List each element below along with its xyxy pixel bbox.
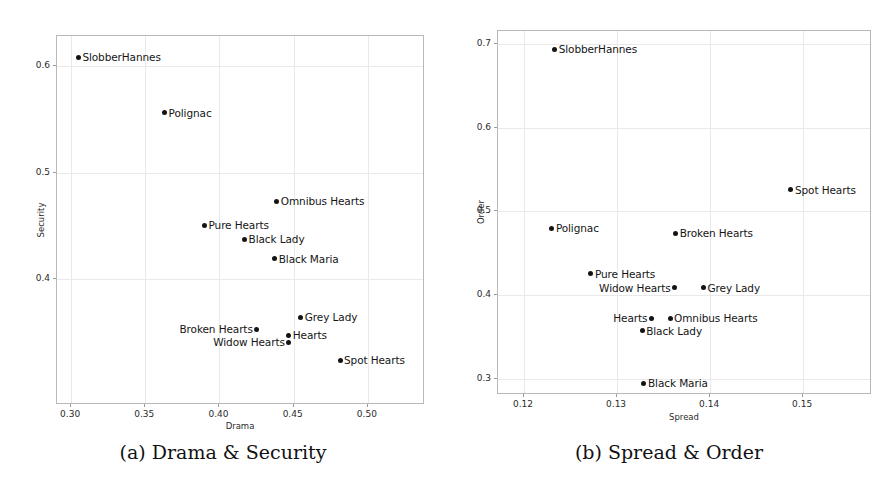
x-tick-mark [144, 404, 145, 407]
x-tick-label: 0.12 [513, 399, 533, 409]
x-tick-mark [218, 404, 219, 407]
panel-spread-order: Spread Order (b) Spread & Order 0.120.13… [446, 0, 892, 502]
x-tick-mark [802, 394, 803, 397]
gridline-horizontal [57, 279, 423, 280]
data-point [673, 231, 678, 236]
data-point-label: SlobberHannes [82, 52, 160, 63]
gridline-horizontal [498, 44, 870, 45]
gridline-vertical [368, 36, 369, 403]
x-tick-label: 0.30 [60, 409, 80, 419]
data-point-label: Spot Hearts [795, 184, 856, 195]
panel-drama-security: Drama Security (a) Drama & Security 0.30… [0, 0, 446, 502]
gridline-horizontal [57, 66, 423, 67]
data-point-label: Polignac [169, 107, 212, 118]
x-tick-label: 0.14 [699, 399, 719, 409]
x-tick-label: 0.40 [208, 409, 228, 419]
y-tick-mark [53, 65, 56, 66]
data-point-label: Hearts [293, 330, 327, 341]
y-tick-mark [494, 210, 497, 211]
y-tick-mark [494, 378, 497, 379]
y-tick-mark [53, 278, 56, 279]
gridline-horizontal [57, 173, 423, 174]
x-tick-mark [616, 394, 617, 397]
gridline-vertical [71, 36, 72, 403]
data-point-label: SlobberHannes [559, 44, 637, 55]
x-tick-label: 0.35 [134, 409, 154, 419]
data-point [202, 223, 207, 228]
y-tick-mark [494, 43, 497, 44]
data-point-label: Grey Lady [708, 282, 761, 293]
data-point-label: Pure Hearts [595, 268, 655, 279]
y-tick-mark [53, 172, 56, 173]
gridline-horizontal [498, 128, 870, 129]
gridline-horizontal [498, 211, 870, 212]
data-point-label: Spot Hearts [344, 355, 405, 366]
x-tick-label: 0.45 [283, 409, 303, 419]
gridline-vertical [145, 36, 146, 403]
data-point [552, 47, 557, 52]
y-tick-label: 0.6 [22, 60, 50, 70]
x-tick-label: 0.15 [792, 399, 812, 409]
data-point-label: Polignac [556, 223, 599, 234]
figure-two-scatter-panels: Drama Security (a) Drama & Security 0.30… [0, 0, 892, 502]
gridline-horizontal [498, 295, 870, 296]
x-tick-mark [293, 404, 294, 407]
data-point-label: Pure Hearts [209, 220, 269, 231]
y-tick-label: 0.6 [463, 122, 491, 132]
x-tick-mark [523, 394, 524, 397]
y-tick-mark [494, 127, 497, 128]
data-point [242, 237, 247, 242]
data-point-label: Broken Hearts [179, 324, 252, 335]
data-point-label: Widow Hearts [599, 282, 671, 293]
data-point-label: Black Maria [648, 378, 708, 389]
y-tick-label: 0.7 [463, 38, 491, 48]
y-tick-label: 0.4 [463, 289, 491, 299]
x-tick-label: 0.13 [606, 399, 626, 409]
data-point-label: Omnibus Hearts [674, 313, 758, 324]
data-point-label: Black Lady [646, 325, 702, 336]
gridline-vertical [294, 36, 295, 403]
data-point-label: Widow Hearts [213, 337, 285, 348]
y-tick-label: 0.3 [463, 373, 491, 383]
x-axis-title-a: Drama [226, 421, 255, 431]
data-point-label: Omnibus Hearts [281, 196, 365, 207]
y-tick-label: 0.5 [463, 205, 491, 215]
caption-b: (b) Spread & Order [446, 441, 892, 463]
data-point-label: Grey Lady [305, 312, 358, 323]
caption-a: (a) Drama & Security [0, 441, 446, 463]
data-point-label: Black Maria [279, 253, 339, 264]
x-tick-mark [70, 404, 71, 407]
data-point [338, 358, 343, 363]
x-tick-mark [367, 404, 368, 407]
data-point-label: Black Lady [249, 234, 305, 245]
data-point-label: Hearts [613, 313, 647, 324]
y-tick-mark [494, 294, 497, 295]
data-point [649, 316, 654, 321]
x-tick-mark [709, 394, 710, 397]
y-tick-label: 0.5 [22, 167, 50, 177]
x-axis-title-b: Spread [669, 412, 699, 422]
y-tick-label: 0.4 [22, 273, 50, 283]
x-tick-label: 0.50 [357, 409, 377, 419]
data-point-label: Broken Hearts [680, 228, 753, 239]
data-point [76, 55, 81, 60]
data-point [668, 316, 673, 321]
y-axis-title-a: Security [36, 203, 46, 238]
plot-area-b [497, 30, 871, 394]
